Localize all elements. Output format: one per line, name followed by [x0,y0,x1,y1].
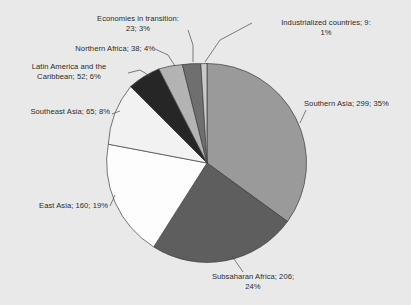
pie-chart-figure: Economies in transition: 23; 3% Northern… [0,0,411,305]
pie-slices [107,64,307,263]
leader-line-northern-africa [155,49,175,66]
pie-label-southeast-asia: Southeast Asia; 65; 8% [2,107,110,117]
pie-label-economies-in-transition: Economies in transition: 23; 3% [77,14,199,33]
leader-line-subsaharan-africa [232,256,243,272]
pie-label-east-asia: East Asia; 160; 19% [8,201,108,211]
leader-line-economies-in-transition [188,30,193,62]
leader-line-southern-asia [300,110,306,123]
pie-label-subsaharan-africa: Subsaharan Africa; 206; 24% [188,272,318,291]
leader-line-industrialized-countries [205,23,252,62]
pie-label-latin-america-caribbean: Latin America and the Caribbean; 52; 6% [12,62,126,81]
pie-label-southern-asia: Southern Asia; 299; 35% [304,99,410,109]
pie-label-industrialized-countries: Industrialized countries; 9: 1% [252,18,400,37]
pie-label-northern-africa: Northern Africa; 38; 4% [40,44,155,54]
